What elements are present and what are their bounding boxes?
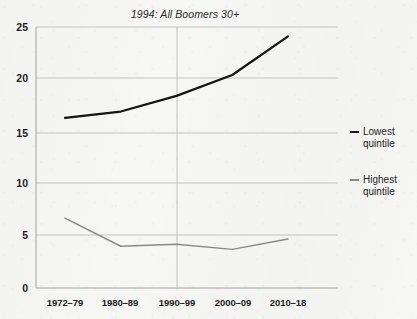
- legend-label-highest-quintile: Highestquintile: [363, 174, 397, 198]
- series-line-highest-quintile: [65, 218, 288, 249]
- plot-area: [0, 0, 417, 319]
- x-tick-label-2010-18: 2010–18: [253, 297, 323, 308]
- line-chart-figure: 1994: All Boomers 30+ 25 20 15 10 5 0 19…: [0, 0, 417, 319]
- legend-item-highest-quintile: Highestquintile: [350, 174, 397, 198]
- legend-label-highest-quintile-line2: quintile: [363, 186, 395, 197]
- gridlines: [36, 27, 338, 235]
- legend-swatch-lowest-quintile-icon: [350, 131, 359, 133]
- y-tick-label-20: 20: [2, 72, 28, 84]
- legend-swatch-highest-quintile-icon: [350, 179, 359, 181]
- y-tick-label-25: 25: [2, 21, 28, 33]
- legend-label-lowest-quintile-line1: Lowest: [363, 126, 395, 137]
- y-tick-label-10: 10: [2, 177, 28, 189]
- series-line-lowest-quintile: [65, 36, 288, 117]
- y-tick-label-5: 5: [2, 229, 28, 241]
- legend-label-lowest-quintile: Lowestquintile: [363, 126, 395, 150]
- y-tick-label-0: 0: [2, 282, 28, 294]
- legend-item-lowest-quintile: Lowestquintile: [350, 126, 395, 150]
- legend-label-lowest-quintile-line2: quintile: [363, 138, 395, 149]
- y-tick-label-15: 15: [2, 127, 28, 139]
- legend-label-highest-quintile-line1: Highest: [363, 174, 397, 185]
